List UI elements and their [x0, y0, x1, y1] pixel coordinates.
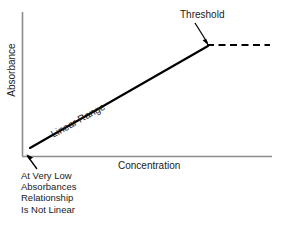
- low-absorbance-line-2: Absorbances: [21, 181, 76, 192]
- low-absorbance-annotation: At Very Low Absorbances Relationship Is …: [21, 170, 76, 215]
- y-axis-label: Absorbance: [6, 10, 18, 130]
- threshold-annotation: Threshold: [180, 9, 224, 21]
- low-absorbance-line-4: Is Not Linear: [21, 204, 76, 215]
- absorbance-concentration-figure: Absorbance Concentration Linear Range Th…: [0, 0, 281, 232]
- x-axis-label: Concentration: [118, 160, 180, 172]
- low-absorbance-line-1: At Very Low: [21, 170, 76, 181]
- low-absorbance-line-3: Relationship: [21, 192, 76, 203]
